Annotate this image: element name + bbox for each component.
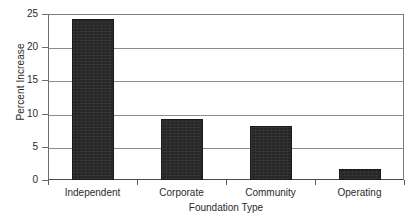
x-axis-tick-label: Operating <box>315 187 404 199</box>
y-axis-tick-label: 20 <box>0 42 38 52</box>
x-axis-tick <box>137 180 138 185</box>
bar-operating[interactable] <box>339 169 381 180</box>
bar-chart: Percent Increase 2520151050 IndependentC… <box>0 0 417 217</box>
y-axis-tick-label: 15 <box>0 75 38 85</box>
bar-slot <box>226 14 315 180</box>
y-axis-tick-label: 10 <box>0 109 38 119</box>
y-axis-tick-label: 0 <box>0 175 38 185</box>
x-axis-tick-label: Independent <box>48 187 137 199</box>
x-axis-tick <box>315 180 316 185</box>
x-axis-tick <box>226 180 227 185</box>
x-axis-title: Foundation Type <box>48 202 404 214</box>
x-axis-tick-label: Corporate <box>137 187 226 199</box>
x-axis-tick <box>48 180 49 185</box>
y-axis-tick-label: 25 <box>0 9 38 19</box>
bar-slot <box>315 14 404 180</box>
bar-community[interactable] <box>250 126 292 180</box>
x-axis-tick <box>404 180 405 185</box>
x-axis-tick-label: Community <box>226 187 315 199</box>
bar-slot <box>137 14 226 180</box>
bar-slot <box>48 14 137 180</box>
bars-group <box>48 14 404 180</box>
bar-independent[interactable] <box>72 19 114 180</box>
y-axis-tick-label: 5 <box>0 142 38 152</box>
bar-corporate[interactable] <box>161 119 203 180</box>
